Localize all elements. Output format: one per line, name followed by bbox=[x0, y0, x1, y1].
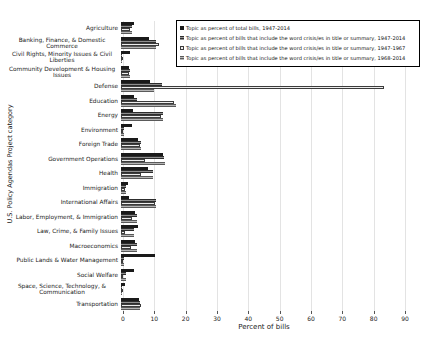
category-row: Defense bbox=[0, 79, 424, 94]
category-label-text: Banking, Finance, & Domestic Commerce bbox=[6, 37, 118, 49]
bar-series-4 bbox=[121, 234, 134, 237]
legend-item: Topic as percent of bills that include t… bbox=[180, 53, 416, 63]
category-row: Immigration bbox=[0, 181, 424, 196]
bar-group bbox=[121, 66, 403, 78]
x-tick-label: 60 bbox=[303, 315, 319, 322]
category-label: Energy bbox=[0, 112, 121, 118]
category-label: Agriculture bbox=[0, 25, 121, 31]
category-label-text: Transportation bbox=[76, 301, 118, 307]
x-tick-mark bbox=[217, 311, 218, 314]
category-label-text: Foreign Trade bbox=[79, 141, 118, 147]
category-label: Space, Science, Technology, & Communicat… bbox=[0, 283, 121, 295]
category-label: Immigration bbox=[0, 185, 121, 191]
bar-group bbox=[121, 182, 403, 194]
category-label-text: Labor, Employment, & Immigration bbox=[16, 214, 118, 220]
bar-group bbox=[121, 196, 403, 208]
category-label: International Affairs bbox=[0, 199, 121, 205]
category-label: Public Lands & Water Management bbox=[0, 257, 121, 263]
category-label: Civil Rights, Minority Issues & Civil Li… bbox=[0, 51, 121, 63]
category-row: Macroeconomics bbox=[0, 239, 424, 254]
category-label-text: Defense bbox=[94, 83, 118, 89]
category-label-text: Social Welfare bbox=[77, 272, 118, 278]
legend-item: Topic as percent of total bills, 1947-20… bbox=[180, 23, 416, 33]
category-row: Energy bbox=[0, 108, 424, 123]
category-label-text: Education bbox=[89, 98, 118, 104]
category-row: Law, Crime, & Family Issues bbox=[0, 224, 424, 239]
category-row: Foreign Trade bbox=[0, 137, 424, 152]
x-axis: Percent of bills 0102030405060708090 bbox=[0, 311, 424, 335]
category-row: Public Lands & Water Management bbox=[0, 253, 424, 268]
bar-group bbox=[121, 269, 403, 281]
category-label-text: Health bbox=[99, 170, 118, 176]
category-row: Health bbox=[0, 166, 424, 181]
category-row: Community Development & Housing Issues bbox=[0, 65, 424, 80]
legend-label: Topic as percent of total bills, 1947-20… bbox=[186, 23, 290, 33]
bar-series-4 bbox=[121, 60, 122, 63]
bar-series-4 bbox=[121, 46, 156, 49]
category-label: Banking, Finance, & Domestic Commerce bbox=[0, 37, 121, 49]
category-label-text: Agriculture bbox=[86, 25, 118, 31]
x-tick-mark bbox=[280, 311, 281, 314]
category-row: Environment bbox=[0, 123, 424, 138]
bar-group bbox=[121, 95, 403, 107]
category-label: Labor, Employment, & Immigration bbox=[0, 214, 121, 220]
legend-marker-icon bbox=[180, 56, 184, 60]
category-row: Government Operations bbox=[0, 152, 424, 167]
bar-chart: U.S. Policy Agendas Project category Agr… bbox=[0, 0, 424, 353]
bar-series-4 bbox=[121, 307, 140, 310]
category-label-text: Community Development & Housing Issues bbox=[6, 66, 118, 78]
category-row: Labor, Employment, & Immigration bbox=[0, 210, 424, 225]
legend-label: Topic as percent of bills that include t… bbox=[186, 53, 405, 63]
category-label: Macroeconomics bbox=[0, 243, 121, 249]
legend-label: Topic as percent of bills that include t… bbox=[186, 43, 405, 53]
bar-series-1 bbox=[121, 254, 155, 257]
category-label: Foreign Trade bbox=[0, 141, 121, 147]
x-tick-label: 0 bbox=[115, 315, 131, 322]
bar-series-4 bbox=[121, 89, 154, 92]
bar-series-4 bbox=[121, 263, 124, 266]
x-tick-mark bbox=[405, 311, 406, 314]
bar-group bbox=[121, 240, 403, 252]
category-row: Space, Science, Technology, & Communicat… bbox=[0, 282, 424, 297]
category-label: Education bbox=[0, 98, 121, 104]
category-label: Social Welfare bbox=[0, 272, 121, 278]
category-row: Transportation bbox=[0, 297, 424, 312]
bar-series-4 bbox=[121, 118, 163, 121]
category-label-text: Space, Science, Technology, & Communicat… bbox=[6, 283, 118, 295]
x-tick-label: 70 bbox=[334, 315, 350, 322]
legend-item: Topic as percent of bills that include t… bbox=[180, 43, 416, 53]
category-label: Environment bbox=[0, 127, 121, 133]
bar-series-4 bbox=[121, 75, 130, 78]
category-label-text: Immigration bbox=[83, 185, 118, 191]
category-label-text: Energy bbox=[98, 112, 118, 118]
category-label-text: International Affairs bbox=[61, 199, 118, 205]
x-tick-mark bbox=[374, 311, 375, 314]
x-tick-label: 50 bbox=[272, 315, 288, 322]
bar-series-4 bbox=[121, 292, 122, 295]
bar-series-4 bbox=[121, 31, 132, 34]
bar-series-4 bbox=[121, 249, 137, 252]
legend-label: Topic as percent of bills that include t… bbox=[186, 33, 405, 43]
x-tick-mark bbox=[248, 311, 249, 314]
category-label: Defense bbox=[0, 83, 121, 89]
category-row: Social Welfare bbox=[0, 268, 424, 283]
x-tick-mark bbox=[342, 311, 343, 314]
x-tick-label: 20 bbox=[178, 315, 194, 322]
bar-series-4 bbox=[121, 191, 126, 194]
x-tick-label: 10 bbox=[146, 315, 162, 322]
bar-group bbox=[121, 124, 403, 136]
bar-series-4 bbox=[121, 176, 153, 179]
bar-group bbox=[121, 211, 403, 223]
x-tick-mark bbox=[311, 311, 312, 314]
category-label-text: Environment bbox=[81, 127, 118, 133]
bar-series-1 bbox=[121, 51, 130, 54]
category-label: Community Development & Housing Issues bbox=[0, 66, 121, 78]
bar-group bbox=[121, 298, 403, 310]
bar-series-4 bbox=[121, 147, 141, 150]
category-label-text: Government Operations bbox=[48, 156, 118, 162]
bar-series-4 bbox=[121, 104, 176, 107]
category-label: Law, Crime, & Family Issues bbox=[0, 228, 121, 234]
bar-series-4 bbox=[121, 162, 165, 165]
category-label-text: Public Lands & Water Management bbox=[16, 257, 118, 263]
bar-series-3 bbox=[121, 86, 384, 89]
